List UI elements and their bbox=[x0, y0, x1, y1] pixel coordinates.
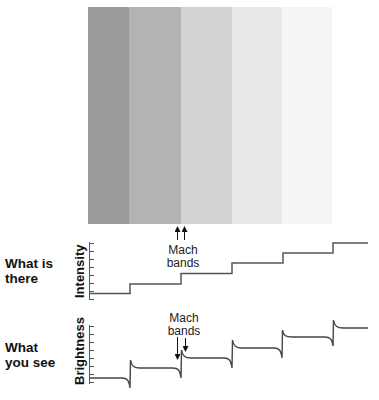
plots bbox=[0, 0, 379, 400]
brightness-mach-band-line bbox=[90, 320, 368, 388]
brightness-axis bbox=[90, 325, 95, 384]
mach-band-arrows-top bbox=[178, 229, 185, 240]
intensity-axis bbox=[90, 242, 95, 300]
intensity-staircase-line bbox=[90, 243, 368, 294]
